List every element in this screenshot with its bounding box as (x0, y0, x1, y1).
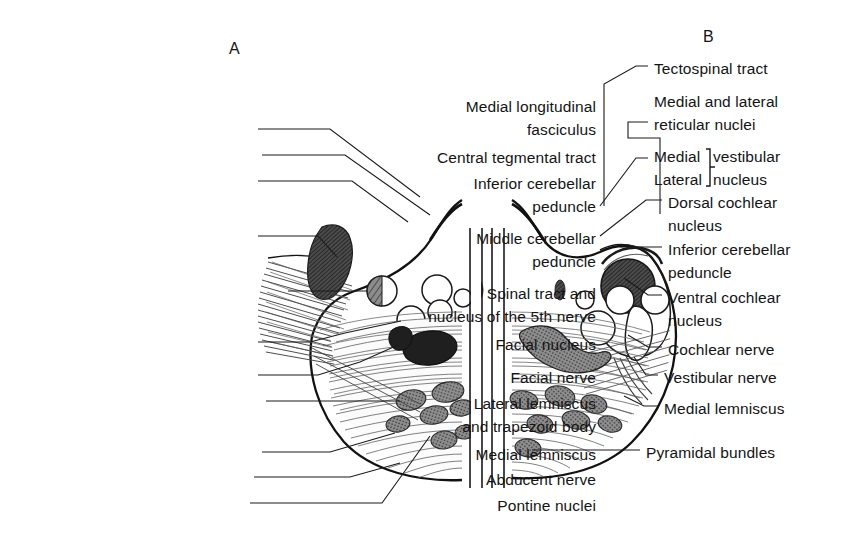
label-line: Pontine nuclei (497, 495, 596, 518)
label-line: fasciculus (466, 119, 596, 142)
medial-longitudinal-fasciculus-leader (258, 129, 420, 197)
label-line: Middle cerebellar (476, 228, 596, 251)
label-spinal-tract-and-nucleus-5th-nerve: Spinal tract andnucleus of the 5th nerve (428, 283, 596, 328)
medial-lateral-vestibular-nucleus-leader (600, 158, 648, 206)
label-line: peduncle (668, 262, 791, 285)
label-medial-lemniscus: Medial lemniscus (476, 444, 596, 467)
label-dorsal-cochlear-nucleus: Dorsal cochlearnucleus (668, 192, 777, 237)
inferior-cerebellar-peduncle-leader (258, 181, 408, 222)
label-line: Medial (654, 146, 702, 169)
label-medial-longitudinal-fasciculus: Medial longitudinalfasciculus (466, 96, 596, 141)
label-inferior-cerebellar-peduncle: Inferior cerebellarpeduncle (473, 173, 596, 218)
label-line: Pyramidal bundles (646, 442, 775, 465)
label-medial-lemniscus-right: Medial lemniscus (664, 398, 784, 421)
label-line: Dorsal cochlear (668, 192, 777, 215)
label-line: Facial nerve (510, 367, 596, 390)
label-line: nucleus (713, 169, 780, 192)
label-tectospinal-tract: Tectospinal tract (654, 58, 768, 81)
label-line: nucleus (668, 310, 781, 333)
label-inferior-cerebellar-peduncle-right: Inferior cerebellarpeduncle (668, 239, 791, 284)
label-line: peduncle (473, 196, 596, 219)
label-cochlear-nerve: Cochlear nerve (668, 339, 775, 362)
label-line: Tectospinal tract (654, 58, 768, 81)
label-line: Cochlear nerve (668, 339, 775, 362)
label-line: Vestibular nerve (664, 367, 777, 390)
tectospinal-tract-leader (604, 66, 648, 206)
label-line: vestibular (713, 146, 780, 169)
label-line: Medial lemniscus (476, 444, 596, 467)
label-line: Ventral cochlear (668, 287, 781, 310)
label-line: Medial and lateral (654, 91, 778, 114)
label-line: Medial lemniscus (664, 398, 784, 421)
label-line: and trapezoid body (462, 416, 596, 439)
label-medial-lateral-vestibular-nucleus: MedialLateral (654, 146, 702, 191)
label-line: Abducent nerve (486, 469, 596, 492)
label-line: Central tegmental tract (437, 147, 596, 170)
label-line: Facial nucleus (496, 334, 596, 357)
label-vestibular-nerve: Vestibular nerve (664, 367, 777, 390)
label-line: nucleus (668, 215, 777, 238)
label-facial-nucleus: Facial nucleus (496, 334, 596, 357)
label-ventral-cochlear-nucleus: Ventral cochlearnucleus (668, 287, 781, 332)
label-line: reticular nuclei (654, 114, 778, 137)
label-medial-and-lateral-reticular-nuclei: Medial and lateralreticular nuclei (654, 91, 778, 136)
label-lateral-lemniscus-and-trapezoid-body: Lateral lemniscusand trapezoid body (462, 393, 596, 438)
spinal-tract-5th-left (367, 276, 397, 306)
label-central-tegmental-tract: Central tegmental tract (437, 147, 596, 170)
label-line: peduncle (476, 251, 596, 274)
label-line: Lateral lemniscus (462, 393, 596, 416)
label-abducent-nerve: Abducent nerve (486, 469, 596, 492)
label-line: nucleus of the 5th nerve (428, 306, 596, 329)
panel-tag-b: B (703, 28, 714, 46)
facial-nerve-left (389, 327, 412, 351)
pons-left-half (258, 200, 483, 480)
label-line: Spinal tract and (428, 283, 596, 306)
label-line: Inferior cerebellar (668, 239, 791, 262)
label-pontine-nuclei: Pontine nuclei (497, 495, 596, 518)
dorsal-cochlear-nucleus-leader (600, 200, 662, 236)
label-line: Medial longitudinal (466, 96, 596, 119)
label-line: Lateral (654, 169, 702, 192)
label-line: Inferior cerebellar (473, 173, 596, 196)
anatomical-figure-page: A B Medial longitudinalfasciculusCentral… (0, 0, 854, 538)
panel-tag-a: A (229, 40, 240, 58)
label-pyramidal-bundles: Pyramidal bundles (646, 442, 775, 465)
label-middle-cerebellar-peduncle: Middle cerebellarpeduncle (476, 228, 596, 273)
label-facial-nerve: Facial nerve (510, 367, 596, 390)
label-medial-lateral-vestibular-nucleus-bracket-text: vestibularnucleus (713, 146, 780, 191)
